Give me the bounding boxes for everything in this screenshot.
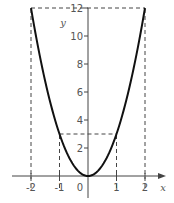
x-tick-label: -2 [26, 182, 36, 193]
parabola-chart: -2-101224681012xy [0, 0, 174, 203]
x-axis-arrow-icon [158, 173, 166, 179]
x-tick-label: 1 [113, 182, 119, 193]
y-axis-label: y [59, 17, 66, 28]
y-tick-label: 2 [77, 143, 83, 154]
y-tick-label: 8 [77, 59, 83, 70]
y-tick-label: 10 [70, 31, 83, 42]
y-tick-label: 6 [77, 87, 83, 98]
x-axis-label: x [160, 182, 166, 193]
y-tick-label: 12 [70, 3, 83, 14]
y-tick-label: 4 [77, 115, 83, 126]
x-tick-label: -1 [55, 182, 65, 193]
x-tick-label: 2 [142, 182, 148, 193]
x-tick-label: 0 [77, 182, 83, 193]
